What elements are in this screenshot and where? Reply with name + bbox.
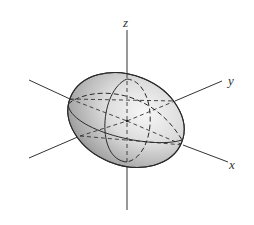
- origin-point: [126, 120, 128, 122]
- y-axis-label: y: [226, 73, 234, 88]
- ellipsoid-surface: [54, 56, 199, 184]
- x-axis-label: x: [228, 157, 235, 172]
- x-axis-negative: [29, 136, 80, 158]
- y-axis-negative: [29, 80, 70, 99]
- z-axis-label: z: [122, 15, 128, 30]
- x-axis-positive: [183, 145, 228, 162]
- y-axis-positive: [175, 81, 222, 101]
- ellipsoid-diagram: z y x: [0, 0, 254, 225]
